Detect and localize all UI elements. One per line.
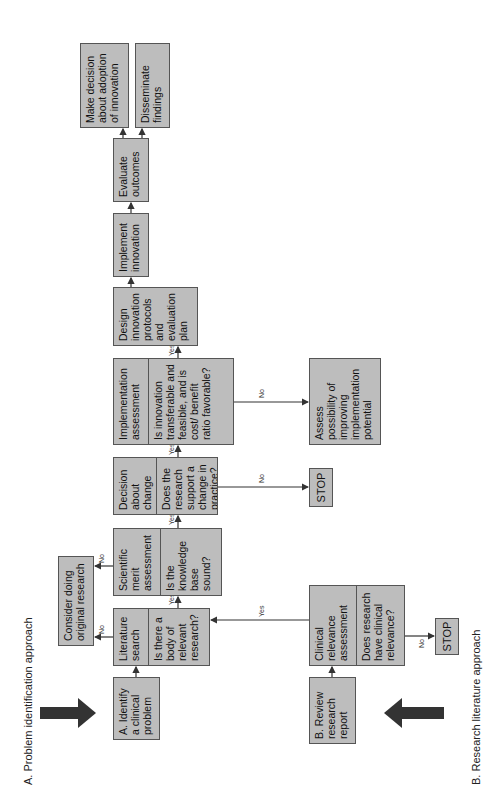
make-decision-box: Make decision about adoption of innovati… — [80, 43, 129, 128]
yes-label: Yes — [258, 606, 265, 617]
yes-label: Yes — [168, 514, 175, 525]
big-arrow-b-icon — [384, 698, 444, 728]
no-label: No — [258, 474, 265, 483]
no-label: No — [418, 639, 425, 648]
assess-possibility-box: Assess possibility of improving implemen… — [309, 358, 381, 445]
yes-label: Yes — [168, 444, 175, 455]
big-arrow-a-icon — [40, 698, 96, 728]
scientific-merit-box: Scientific merit assessment Is the knowl… — [113, 528, 222, 596]
evaluate-outcomes-box: Evaluate outcomes — [113, 138, 149, 202]
identify-problem-box: A. Identify a clinical problem — [113, 677, 160, 740]
no-label: No — [258, 389, 265, 398]
implementation-assessment-box: Implementation assessment Is innovation … — [113, 358, 234, 445]
implementation-assessment-question: Is innovation transferable and feasible,… — [149, 359, 233, 444]
literature-search-title: Literature search — [114, 609, 149, 665]
scientific-merit-question: Is the knowledge base sound? — [161, 529, 221, 595]
clinical-relevance-box: Clinical relevance assessment Does resea… — [309, 585, 405, 666]
scientific-merit-title: Scientific merit assessment — [114, 529, 161, 595]
disseminate-box: Disseminate findings — [135, 43, 170, 128]
clinical-relevance-title: Clinical relevance assessment — [310, 586, 357, 665]
clinical-relevance-question: Does research have clinical relevance? — [357, 586, 404, 665]
decision-change-box: Decision about change Does the research … — [113, 457, 218, 515]
decision-change-question: Does the research support a change in pr… — [157, 458, 218, 514]
review-report-box: B. Review research report — [309, 677, 356, 744]
implementation-assessment-title: Implementation assessment — [114, 359, 149, 444]
consider-original-research-box: Consider doing original research — [58, 556, 94, 646]
connectors — [0, 0, 490, 788]
flowchart: A. Problem identification approach B. Re… — [0, 0, 490, 788]
literature-search-box: Literature search Is there a body of rel… — [113, 608, 210, 666]
design-protocols-box: Design innovation protocols and evaluati… — [113, 287, 198, 346]
no-label: No — [98, 625, 105, 634]
literature-search-question: Is there a body of relevant research? — [149, 609, 209, 665]
no-label: No — [98, 554, 105, 563]
stop-decision-box: STOP — [309, 468, 333, 507]
implement-innovation-box: Implement innovation — [113, 213, 149, 277]
stop-clinical-box: STOP — [435, 618, 459, 655]
decision-change-title: Decision about change — [114, 458, 157, 514]
yes-label: Yes — [168, 345, 175, 356]
